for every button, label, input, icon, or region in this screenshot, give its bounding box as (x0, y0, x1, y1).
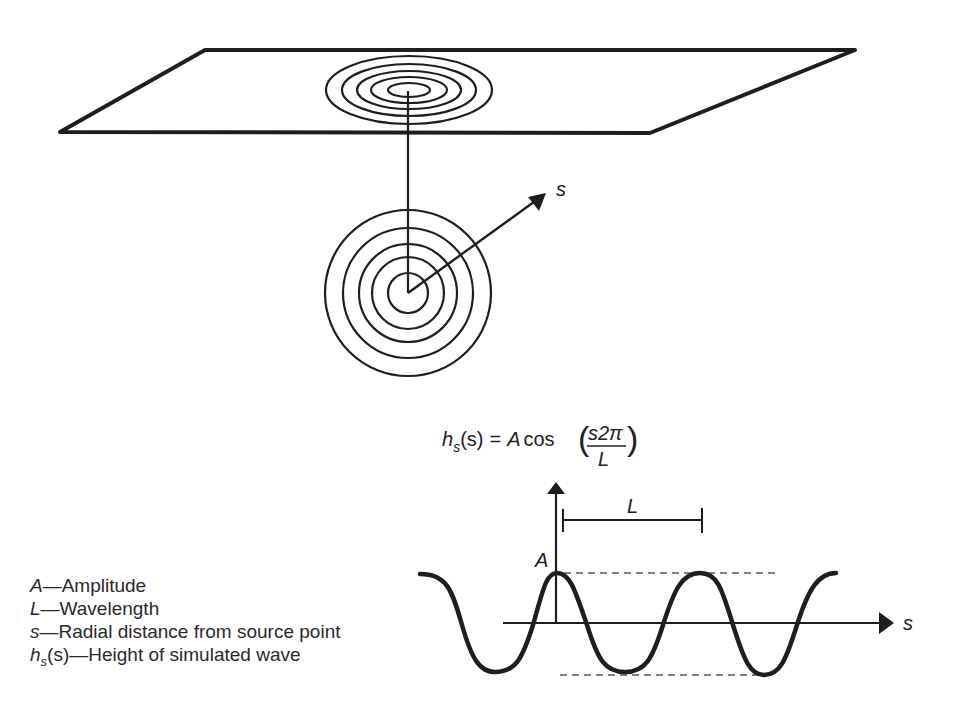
horizontal-axis (503, 612, 894, 634)
svg-text:): ) (627, 419, 638, 457)
legend-item-amplitude: A—Amplitude (30, 574, 340, 597)
equation: hs(s)=Acos ( s2π L ) (442, 419, 638, 470)
radial-arrow (408, 193, 546, 293)
wavelength-label: L (627, 495, 638, 517)
vertical-axis (547, 482, 565, 623)
legend-item-radial-distance: s—Radial distance from source point (30, 620, 340, 643)
legend: A—Amplitude L—Wavelength s—Radial distan… (30, 574, 340, 673)
svg-text:L: L (598, 448, 609, 470)
wave-axis-label: s (903, 612, 913, 634)
svg-text:hs(s)=Acos: hs(s)=Acos (442, 428, 555, 455)
amplitude-label: A (534, 549, 548, 571)
legend-item-wavelength: L—Wavelength (30, 597, 340, 620)
svg-text:s2π: s2π (588, 422, 623, 444)
legend-item-wave-height: hs(s)—Height of simulated wave (30, 643, 340, 673)
radial-axis-label: s (556, 178, 566, 200)
